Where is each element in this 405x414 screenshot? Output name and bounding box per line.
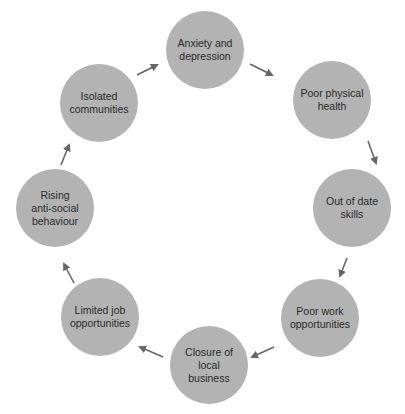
node-label: Poor physical health (300, 87, 363, 113)
arrow-limited-to-rising (64, 264, 74, 283)
arrow-closure-to-limited (140, 347, 163, 357)
node-poor-work-opportunities: Poor work opportunities (281, 279, 359, 357)
node-label: Limited job opportunities (70, 304, 130, 330)
node-out-of-date-skills: Out of date skills (313, 169, 391, 247)
arrow-work-to-closure (252, 347, 274, 357)
arrow-anxiety-to-physical (250, 64, 272, 75)
arrow-rising-to-isolated (61, 145, 69, 165)
node-label: Isolated communities (70, 90, 129, 116)
node-limited-job-opportunities: Limited job opportunities (61, 278, 139, 356)
node-rising-anti-social-behaviour: Rising anti-social behaviour (16, 169, 94, 247)
node-label: Rising anti-social behaviour (31, 189, 78, 228)
node-label: Closure of local business (174, 346, 244, 385)
node-label: Anxiety and depression (178, 37, 233, 63)
arrow-skills-to-work (340, 258, 347, 276)
node-label: Poor work opportunities (290, 305, 350, 331)
arrow-physical-to-skills (368, 141, 376, 163)
node-isolated-communities: Isolated communities (60, 64, 138, 142)
node-anxiety-and-depression: Anxiety and depression (166, 11, 244, 89)
node-closure-of-local-business: Closure of local business (170, 326, 248, 404)
node-label: Out of date skills (326, 195, 378, 221)
node-poor-physical-health: Poor physical health (293, 61, 371, 139)
arrow-isolated-to-anxiety (137, 65, 157, 75)
